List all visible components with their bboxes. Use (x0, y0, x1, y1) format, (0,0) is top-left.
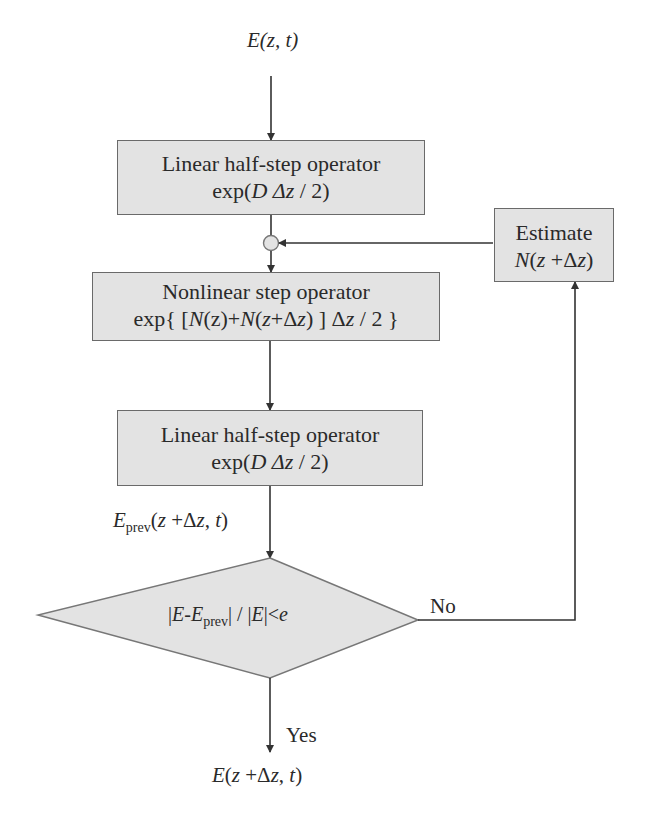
input-label: E(z, t) (247, 28, 298, 53)
input-E: E (247, 28, 260, 52)
linear-half-step-box-2: Linear half-step operator exp(D Δz / 2) (117, 410, 423, 486)
output-label: E(z +Δz, t) (212, 763, 302, 788)
estimate-formula: N(z +Δz) (495, 246, 613, 273)
linear1-formula: exp(D Δz / 2) (118, 177, 424, 204)
linear-half-step-box-1: Linear half-step operator exp(D Δz / 2) (117, 140, 425, 215)
e-prev-label: Eprev(z +Δz, t) (113, 508, 228, 536)
linear1-title: Linear half-step operator (118, 150, 424, 177)
yes-label: Yes (286, 723, 317, 748)
linear2-title: Linear half-step operator (118, 421, 422, 448)
estimate-box: Estimate N(z +Δz) (494, 208, 614, 282)
nonlinear-title: Nonlinear step operator (93, 278, 439, 305)
nonlinear-formula: exp{ [N(z)+N(z+Δz) ] Δz / 2 } (93, 305, 439, 332)
junction-circle (264, 236, 279, 251)
estimate-title: Estimate (495, 219, 613, 246)
no-label: No (430, 594, 456, 619)
decision-condition: |E-Eprev| / |E|<e (168, 603, 288, 630)
nonlinear-step-box: Nonlinear step operator exp{ [N(z)+N(z+Δ… (92, 272, 440, 341)
linear2-formula: exp(D Δz / 2) (118, 448, 422, 475)
arrow-no-to-estimate (418, 282, 575, 620)
input-args: (z, t) (260, 28, 299, 52)
